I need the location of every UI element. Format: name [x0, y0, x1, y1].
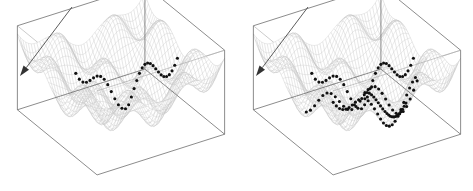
surface-mesh [17, 0, 224, 131]
trajectory-point [391, 123, 394, 126]
trajectory-point [391, 109, 394, 112]
trajectory-point [394, 120, 397, 123]
trajectory-point [363, 91, 366, 94]
trajectory-point [376, 112, 379, 115]
trajectory-point [411, 80, 414, 83]
trajectory-point [149, 62, 152, 65]
trajectory-point [309, 109, 312, 112]
box-edge-bottom [17, 110, 97, 175]
trajectory-point [328, 76, 331, 79]
trajectory-point [338, 100, 341, 103]
trajectory-point [332, 101, 335, 104]
trajectory-point [401, 108, 404, 111]
trajectory-point [110, 90, 113, 93]
trajectory-point [317, 99, 320, 102]
trajectory-point [330, 92, 333, 95]
trajectory-point [412, 57, 415, 60]
trajectory-point [325, 92, 328, 95]
trajectory-point [317, 81, 320, 84]
trajectory-point [305, 110, 308, 113]
trajectory-point [388, 103, 391, 106]
surface-mesh [253, 0, 460, 131]
trajectory-point [334, 95, 337, 98]
trajectory-point [373, 107, 376, 110]
trajectory-point [168, 73, 171, 76]
trajectory-point [151, 64, 154, 67]
surface-plot-right [236, 0, 473, 191]
trajectory-point [165, 75, 168, 78]
trajectory-point [414, 76, 417, 79]
trajectory-point [154, 67, 157, 70]
trajectory-point [367, 99, 370, 102]
trajectory-point [346, 90, 349, 93]
trajectory-point [176, 57, 179, 60]
trajectory-point [310, 72, 313, 75]
trajectory-point [357, 98, 360, 101]
trajectory-point [370, 103, 373, 106]
trajectory-point [379, 104, 382, 107]
trajectory-point [404, 73, 407, 76]
trajectory-point [377, 66, 380, 69]
trajectory-point [398, 75, 401, 78]
trajectory-point [393, 70, 396, 73]
trajectory-point [382, 121, 385, 124]
trajectory-point [342, 105, 345, 108]
trajectory-point [372, 95, 375, 98]
trajectory-point [351, 103, 354, 106]
trajectory-point [382, 61, 385, 64]
trajectory-point [133, 87, 136, 90]
trajectory-point [385, 62, 388, 65]
trajectory-point [379, 117, 382, 120]
trajectory-point [313, 104, 316, 107]
trajectory-point [120, 107, 123, 110]
trajectory-point [408, 86, 411, 89]
box-edge-bottom [97, 134, 225, 175]
trajectory-point [377, 101, 380, 104]
trajectory-point [335, 75, 338, 78]
trajectory-point [381, 92, 384, 95]
trajectory-point [350, 108, 353, 111]
trajectory-point [390, 67, 393, 70]
trajectory-point [321, 94, 324, 97]
trajectory-point [160, 73, 163, 76]
trajectory-point [406, 69, 409, 72]
panel-left [0, 0, 237, 191]
trajectory-point [405, 93, 408, 96]
figure-root [0, 0, 473, 191]
trajectory-point [157, 70, 160, 73]
panel-right [236, 0, 473, 191]
trajectory-point [354, 105, 357, 108]
trajectory-point [403, 105, 406, 108]
trajectory-point [363, 97, 366, 100]
trajectory-point [314, 78, 317, 81]
trajectory-point [341, 108, 344, 111]
trajectory-point [335, 104, 338, 107]
trajectory-point [385, 124, 388, 127]
trajectory-point [81, 81, 84, 84]
trajectory-point [416, 79, 419, 82]
trajectory-point [354, 101, 357, 104]
trajectory-point [113, 97, 116, 100]
trajectory-point [409, 64, 412, 67]
trajectory-point [78, 78, 81, 81]
trajectory-point [85, 81, 88, 84]
trajectory-point [143, 63, 146, 66]
trajectory-point [173, 64, 176, 67]
arrow-head [256, 66, 265, 76]
trajectory-point [388, 125, 391, 128]
trajectory-point [360, 107, 363, 110]
trajectory-point [348, 106, 351, 109]
trajectory-point [379, 63, 382, 66]
trajectory-point [396, 73, 399, 76]
trajectory-point [381, 107, 384, 110]
trajectory-point [162, 75, 165, 78]
trajectory-point [124, 107, 127, 110]
trajectory-point [96, 75, 99, 78]
box-edge-bottom [253, 110, 333, 175]
trajectory-point [383, 110, 386, 113]
trajectory-point [387, 64, 390, 67]
trajectory-point [321, 81, 324, 84]
trajectory-point [324, 79, 327, 82]
trajectory-point [370, 85, 373, 88]
trajectory-point [374, 72, 377, 75]
